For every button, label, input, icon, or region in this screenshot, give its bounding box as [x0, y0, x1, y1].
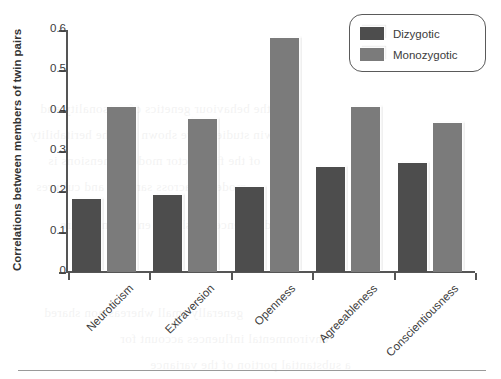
bar-dizygotic-extraversion	[153, 195, 182, 272]
y-axis-tick-label: 0.5	[40, 62, 66, 74]
chart-legend: Dizygotic Monozygotic	[349, 14, 486, 72]
y-axis-tick-label: 0.4	[40, 103, 66, 115]
legend-swatch-monozygotic	[360, 48, 384, 61]
x-axis-tick-mark	[312, 273, 314, 280]
x-axis-label-neuroticism: Neuroticism	[84, 282, 135, 333]
legend-label-monozygotic: Monozygotic	[393, 49, 458, 61]
legend-swatch-dizygotic	[360, 27, 384, 40]
y-axis-title: Correlations between members of twin pai…	[8, 0, 26, 300]
bar-dizygotic-openness	[235, 187, 264, 272]
y-axis-tick-label: 0.1	[40, 224, 66, 236]
x-axis-tick-mark	[231, 273, 233, 280]
bar-chart-figure: Correlations between members of twin pai…	[0, 0, 501, 379]
y-axis-tick-label: 0.2	[40, 183, 66, 195]
bar-dizygotic-conscientiousness	[398, 163, 427, 272]
legend-label-dizygotic: Dizygotic	[393, 28, 440, 40]
x-axis-tick-mark	[475, 273, 477, 280]
bar-monozygotic-neuroticism	[107, 107, 136, 272]
x-axis-tick-mark	[149, 273, 151, 280]
legend-entry-monozygotic: Monozygotic	[360, 44, 485, 65]
y-axis-tick-label: 0.3	[40, 143, 66, 155]
y-axis-tick-label: 0.6	[40, 22, 66, 34]
bar-monozygotic-openness	[270, 38, 299, 272]
x-axis-label-agreeableness: Agreeableness	[317, 282, 380, 345]
bar-group	[231, 30, 312, 272]
bar-dizygotic-agreeableness	[316, 167, 345, 272]
bar-group	[149, 30, 230, 272]
y-axis-tick-label: 0	[40, 264, 66, 276]
x-axis-tick-mark	[68, 273, 70, 280]
page-horizontal-rule	[18, 370, 486, 371]
bar-monozygotic-extraversion	[188, 119, 217, 272]
x-axis-label-extraversion: Extraversion	[163, 282, 217, 336]
x-axis-tick-mark	[394, 273, 396, 280]
bar-monozygotic-agreeableness	[351, 107, 380, 272]
bar-monozygotic-conscientiousness	[433, 123, 462, 272]
legend-entry-dizygotic: Dizygotic	[360, 23, 485, 44]
x-axis-label-conscientiousness: Conscientiousness	[384, 282, 461, 359]
bar-group	[68, 30, 149, 272]
bar-dizygotic-neuroticism	[72, 199, 101, 272]
x-axis-label-openness: Openness	[252, 282, 298, 328]
